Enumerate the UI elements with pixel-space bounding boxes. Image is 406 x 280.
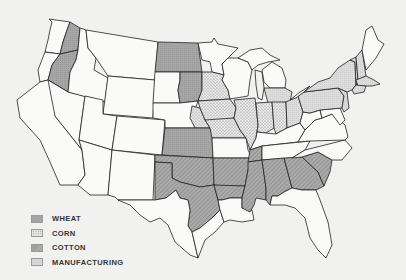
state-new-mexico [108,150,155,200]
state-wyoming [103,76,155,118]
wheat-swatch-icon [31,215,43,223]
manufacturing-swatch-icon [31,258,43,266]
state-new-york [304,60,356,92]
state-maine [362,26,384,70]
legend-label: COTTON [52,243,86,252]
legend-item-manufacturing: MANUFACTURING [31,256,123,269]
state-north-dakota [155,42,202,72]
legend-item-cotton: COTTON [31,241,123,254]
state-texas-west [118,190,198,258]
legend-item-corn: CORN [31,227,123,240]
state-michigan-lower-north [262,62,286,88]
state-indiana [256,102,274,133]
legend-item-wheat: WHEAT [31,212,123,225]
legend-label: WHEAT [52,214,81,223]
state-south-dakota-east [178,72,202,103]
state-missouri-south [212,138,252,158]
state-colorado [112,116,165,155]
state-south-dakota-west [153,72,180,103]
corn-swatch-icon [31,229,43,237]
lake-michigan [255,70,264,100]
state-kansas [162,128,213,158]
cotton-swatch-icon [31,244,43,252]
legend-label: CORN [52,229,76,238]
state-florida [270,188,332,258]
legend: WHEAT CORN COTTON MANUFACTURING [31,212,123,270]
legend-label: MANUFACTURING [52,258,123,267]
